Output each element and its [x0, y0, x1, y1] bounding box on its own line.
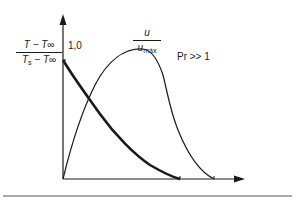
fraction-bar: [16, 52, 62, 53]
y-axis-label-denominator: Ts − T∞: [16, 55, 62, 68]
y-axis-label: T − T∞ Ts − T∞: [16, 40, 62, 68]
fraction-bar: [133, 40, 161, 41]
x-axis-arrow-icon: [234, 176, 245, 183]
denominator-rest: − T∞: [31, 54, 56, 65]
velocity-curve: [63, 49, 214, 179]
prandtl-condition-label: Pr >> 1: [177, 52, 210, 62]
velocity-label: u umáx: [133, 28, 161, 56]
denominator-subscript: máx: [143, 47, 156, 54]
velocity-label-denominator: umáx: [133, 43, 161, 56]
y-axis-arrow-icon: [60, 14, 67, 25]
y-axis-label-numerator: T − T∞: [16, 40, 62, 50]
velocity-label-numerator: u: [133, 28, 161, 38]
y-tick-label: 1,0: [68, 41, 82, 51]
